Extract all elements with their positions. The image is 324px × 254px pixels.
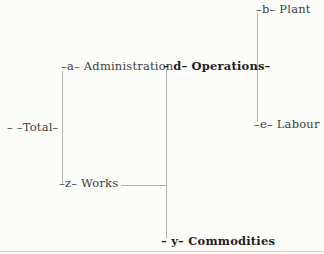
works-branch-vertical-line bbox=[166, 70, 167, 238]
node-label-labour: –e– Labour bbox=[254, 118, 320, 131]
works-horizontal-line bbox=[121, 185, 167, 186]
node-label-commodities: – y– Commodities bbox=[161, 235, 275, 248]
node-label-plant: –b– Plant bbox=[256, 3, 311, 16]
node-label-administration: –a– Administration bbox=[61, 60, 173, 73]
node-label-total: – –Total– bbox=[7, 121, 59, 134]
tree-diagram: – –Total– –a– Administration – d– Operat… bbox=[0, 0, 324, 254]
total-branch-vertical-line bbox=[62, 71, 63, 183]
node-label-works: –z– Works bbox=[59, 177, 118, 190]
node-label-operations: – d– Operations– bbox=[163, 60, 271, 73]
scan-bottom-edge-line bbox=[0, 251, 324, 252]
